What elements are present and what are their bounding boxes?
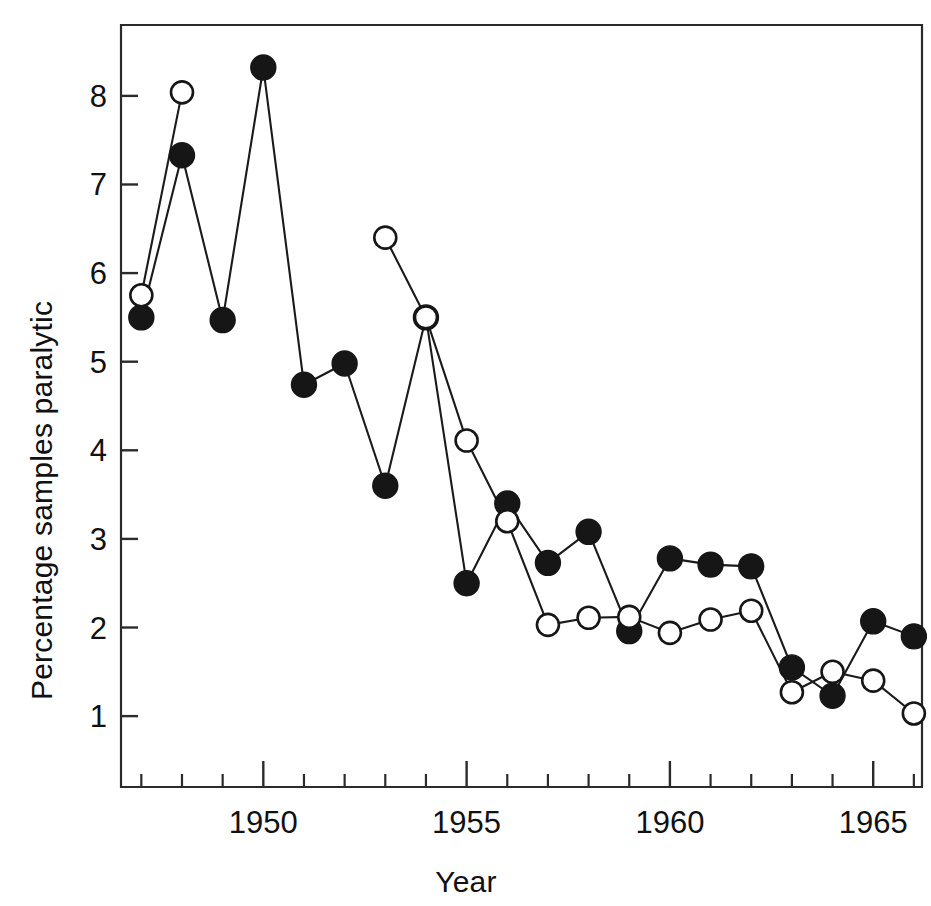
data-point-filled-circles-1962 bbox=[739, 554, 764, 579]
data-point-filled-circles-1950 bbox=[251, 55, 276, 80]
y-tick-label-8: 8 bbox=[90, 79, 107, 114]
x-axis-ticks bbox=[141, 761, 914, 787]
x-axis-title: Year bbox=[435, 865, 496, 898]
data-point-open-circles-1963 bbox=[781, 681, 803, 703]
data-point-filled-circles-1947 bbox=[129, 305, 154, 330]
data-point-filled-circles-1949 bbox=[210, 308, 235, 333]
x-tick-label-1960: 1960 bbox=[635, 805, 704, 840]
series-line-open-circles-1 bbox=[385, 238, 914, 714]
data-series-lines bbox=[141, 68, 914, 714]
y-axis-title: Percentage samples paralytic bbox=[25, 301, 58, 700]
data-point-open-circles-1966 bbox=[903, 702, 925, 724]
data-point-open-circles-1960 bbox=[659, 622, 681, 644]
y-tick-label-2: 2 bbox=[90, 611, 107, 646]
series-line-filled-circles-0 bbox=[141, 68, 914, 696]
data-point-open-circles-1954 bbox=[415, 306, 437, 328]
series-line-open-circles-0 bbox=[141, 92, 182, 295]
y-tick-label-4: 4 bbox=[90, 433, 107, 468]
data-point-open-circles-1962 bbox=[740, 600, 762, 622]
data-point-filled-circles-1965 bbox=[861, 609, 886, 634]
y-axis-ticks bbox=[121, 96, 138, 716]
data-point-filled-circles-1961 bbox=[698, 552, 723, 577]
y-tick-label-6: 6 bbox=[90, 256, 107, 291]
data-point-open-circles-1947 bbox=[130, 284, 152, 306]
data-point-open-circles-1955 bbox=[456, 430, 478, 452]
y-tick-label-7: 7 bbox=[90, 167, 107, 202]
data-point-open-circles-1965 bbox=[862, 670, 884, 692]
data-point-filled-circles-1952 bbox=[332, 351, 357, 376]
y-tick-label-1: 1 bbox=[90, 699, 107, 734]
data-point-filled-circles-1955 bbox=[454, 571, 479, 596]
data-point-filled-circles-1964 bbox=[820, 683, 845, 708]
x-tick-label-1965: 1965 bbox=[839, 805, 908, 840]
line-chart-figure: 12345678 1950195519601965 Percentage sam… bbox=[0, 0, 931, 906]
x-axis-tick-labels: 1950195519601965 bbox=[229, 805, 908, 840]
data-point-filled-circles-1948 bbox=[169, 143, 194, 168]
data-point-open-circles-1948 bbox=[171, 81, 193, 103]
x-tick-label-1950: 1950 bbox=[229, 805, 298, 840]
data-point-filled-circles-1951 bbox=[291, 372, 316, 397]
data-point-open-circles-1959 bbox=[618, 606, 640, 628]
data-point-filled-circles-1958 bbox=[576, 519, 601, 544]
data-point-open-circles-1961 bbox=[700, 609, 722, 631]
data-point-open-circles-1953 bbox=[374, 227, 396, 249]
data-point-open-circles-1958 bbox=[578, 607, 600, 629]
data-point-open-circles-1956 bbox=[496, 510, 518, 532]
data-point-filled-circles-1953 bbox=[373, 473, 398, 498]
data-point-filled-circles-1957 bbox=[535, 550, 560, 575]
y-tick-label-5: 5 bbox=[90, 345, 107, 380]
data-point-filled-circles-1963 bbox=[779, 655, 804, 680]
y-axis-tick-labels: 12345678 bbox=[90, 79, 107, 734]
data-point-filled-circles-1966 bbox=[901, 624, 926, 649]
y-tick-label-3: 3 bbox=[90, 522, 107, 557]
data-point-open-circles-1964 bbox=[822, 661, 844, 683]
data-point-open-circles-1957 bbox=[537, 614, 559, 636]
data-point-filled-circles-1960 bbox=[657, 546, 682, 571]
x-tick-label-1955: 1955 bbox=[432, 805, 501, 840]
